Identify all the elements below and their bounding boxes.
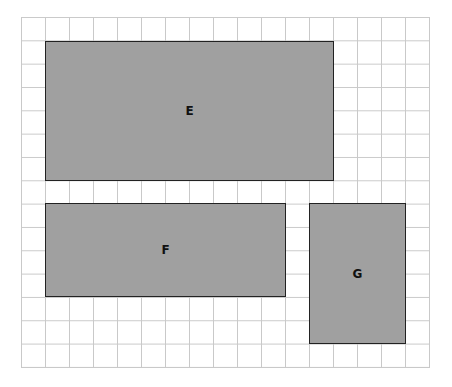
rectangle-e: E — [45, 41, 334, 181]
rectangle-g-label: G — [353, 267, 363, 281]
rectangle-f-label: F — [161, 243, 169, 257]
rectangle-e-label: E — [185, 104, 193, 118]
rectangle-f: F — [45, 203, 286, 297]
rectangle-g: G — [309, 203, 406, 344]
